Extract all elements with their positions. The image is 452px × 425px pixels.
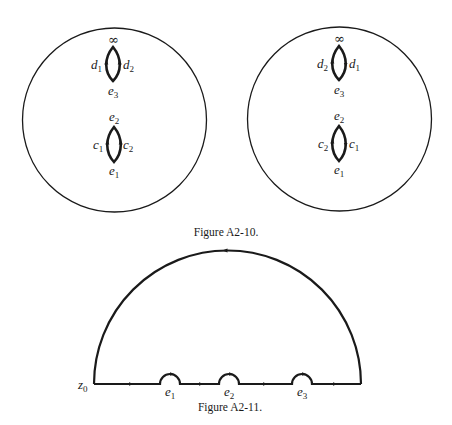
right-top-lens: ∞ d2 d1 e3 (317, 31, 360, 99)
caption-figure-a2-11: Figure A2-11. (198, 401, 262, 414)
right-sphere: ∞ d2 d1 e3 e2 c2 c1 e1 (248, 27, 432, 211)
left-bottom-lens: e2 c1 c2 e1 (93, 109, 133, 180)
label-e2: e2 (334, 108, 344, 125)
lens-curve (332, 126, 346, 161)
label-e3: e3 (108, 83, 119, 100)
figure-canvas: ∞ d1 d2 e3 e2 c1 c2 e1 ∞ d2 d1 e3 (0, 0, 452, 425)
lens-curve (332, 46, 346, 80)
contour-path (94, 251, 361, 385)
label-e1: e1 (165, 384, 175, 401)
left-sphere: ∞ d1 d2 e3 e2 c1 c2 e1 (23, 28, 207, 212)
label-d1: d1 (91, 57, 102, 74)
label-e1: e1 (334, 162, 344, 179)
label-c2: c2 (123, 137, 133, 154)
label-infinity: ∞ (334, 31, 345, 46)
label-z0: z0 (77, 377, 88, 394)
label-e3: e3 (297, 384, 308, 401)
label-infinity: ∞ (108, 32, 119, 47)
label-e2: e2 (109, 109, 119, 126)
label-c1: c1 (93, 137, 103, 154)
lens-curve (106, 47, 120, 81)
right-bottom-lens: e2 c2 c1 e1 (318, 108, 359, 179)
label-d1: d1 (349, 56, 360, 73)
label-e2: e2 (224, 384, 234, 401)
contour-figure: z0 e1 e2 e3 (77, 251, 361, 402)
lens-curve (107, 127, 121, 162)
label-c1: c1 (349, 136, 359, 153)
label-e3: e3 (334, 82, 345, 99)
caption-figure-a2-10: Figure A2-10. (194, 226, 259, 239)
label-d2: d2 (123, 57, 134, 74)
label-c2: c2 (318, 136, 328, 153)
label-e1: e1 (109, 163, 119, 180)
label-d2: d2 (317, 56, 328, 73)
left-top-lens: ∞ d1 d2 e3 (91, 32, 134, 100)
